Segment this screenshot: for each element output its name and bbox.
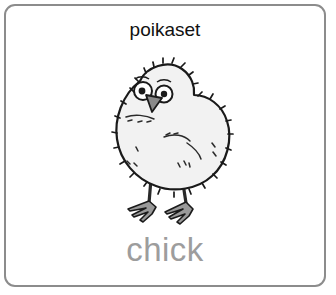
chick-feet [128, 201, 193, 224]
vocabulary-flashcard: poikaset [4, 4, 326, 287]
translation-word-label: chick [6, 231, 324, 269]
chick-illustration [94, 51, 244, 231]
chick-body [112, 58, 233, 197]
foreign-word-label: poikaset [6, 19, 324, 41]
chick-drawing [94, 51, 244, 231]
